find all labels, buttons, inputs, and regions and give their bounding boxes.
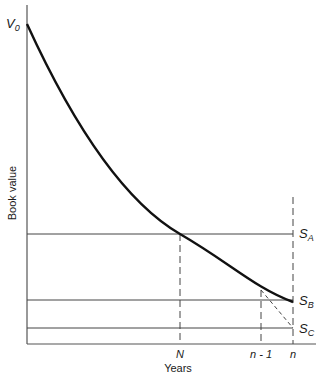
tick-label-N: N	[176, 348, 184, 360]
tick-label-n: n	[290, 348, 296, 360]
sc-label: SC	[299, 321, 315, 338]
book-value-curve	[27, 24, 293, 302]
x-axis-title: Years	[164, 362, 192, 374]
y-axis-title: Book value	[6, 166, 18, 220]
tick-label-n-minus-1: n - 1	[250, 348, 272, 360]
depreciation-diagram: V0 SA SB SC N n - 1 n Years Book value	[0, 0, 319, 374]
sb-label: SB	[299, 293, 314, 310]
sa-label: SA	[299, 226, 314, 243]
v0-label: V0	[6, 16, 20, 33]
